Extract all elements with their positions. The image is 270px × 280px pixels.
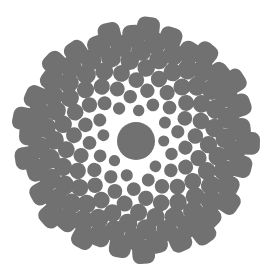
spiral-dot <box>158 135 169 146</box>
spiral-dot-pattern <box>0 0 270 280</box>
spiral-dot <box>131 239 155 264</box>
spiral-dot <box>135 16 160 42</box>
phyllotaxis-diagram <box>0 0 270 280</box>
spiral-dot <box>236 132 260 155</box>
center-disk <box>117 122 155 160</box>
